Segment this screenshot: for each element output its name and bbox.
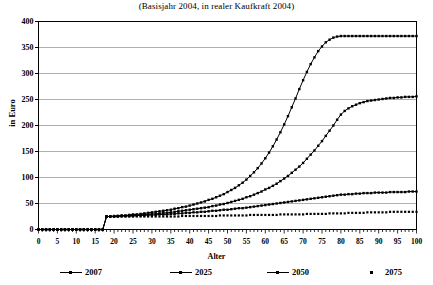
series-marker bbox=[309, 63, 311, 65]
series-marker bbox=[173, 208, 175, 210]
series-marker bbox=[234, 200, 236, 202]
legend-item-2050[interactable]: 2050 bbox=[267, 264, 309, 280]
series-marker bbox=[378, 35, 380, 37]
legend-item-2075[interactable]: 2075 bbox=[360, 264, 402, 280]
series-marker bbox=[336, 35, 338, 37]
y-tick-marks bbox=[35, 22, 39, 230]
series-marker bbox=[355, 104, 357, 106]
series-marker bbox=[177, 215, 179, 217]
series-marker bbox=[279, 213, 281, 215]
series-marker bbox=[257, 205, 259, 207]
series-marker bbox=[283, 201, 285, 203]
series-marker bbox=[173, 215, 175, 217]
series-marker bbox=[351, 193, 353, 195]
series-marker bbox=[340, 193, 342, 195]
series-marker bbox=[275, 138, 277, 140]
series-marker bbox=[79, 228, 81, 230]
series-marker bbox=[332, 212, 334, 214]
legend-label: 2007 bbox=[85, 267, 102, 277]
series-marker bbox=[306, 158, 308, 160]
series-marker bbox=[343, 35, 345, 37]
series-marker bbox=[393, 35, 395, 37]
series-marker bbox=[287, 175, 289, 177]
series-marker bbox=[298, 213, 300, 215]
series-marker bbox=[381, 191, 383, 193]
series-marker bbox=[400, 96, 402, 98]
series-marker bbox=[260, 204, 262, 206]
series-marker bbox=[264, 188, 266, 190]
series-marker bbox=[287, 115, 289, 117]
series-marker bbox=[56, 228, 58, 230]
series-marker bbox=[268, 203, 270, 205]
series-marker bbox=[192, 203, 194, 205]
series-marker bbox=[230, 201, 232, 203]
series-marker bbox=[192, 211, 194, 213]
series-marker bbox=[268, 187, 270, 189]
series-marker bbox=[158, 210, 160, 212]
series-marker bbox=[291, 106, 293, 108]
series-marker bbox=[71, 228, 73, 230]
series-marker bbox=[128, 215, 130, 217]
series-marker bbox=[374, 211, 376, 213]
series-marker bbox=[385, 191, 387, 193]
chart-legend: 2007202520502075 bbox=[0, 264, 433, 282]
series-marker bbox=[366, 192, 368, 194]
series-marker bbox=[408, 190, 410, 192]
series-marker bbox=[90, 228, 92, 230]
series-marker bbox=[162, 213, 164, 215]
series-marker bbox=[181, 206, 183, 208]
series-marker bbox=[98, 228, 100, 230]
series-marker bbox=[359, 192, 361, 194]
series-marker bbox=[370, 35, 372, 37]
series-marker bbox=[238, 207, 240, 209]
series-marker bbox=[173, 213, 175, 215]
series-marker bbox=[404, 35, 406, 37]
series-marker bbox=[200, 215, 202, 217]
series-marker bbox=[207, 199, 209, 201]
series-marker bbox=[378, 98, 380, 100]
series-marker bbox=[260, 190, 262, 192]
series-marker bbox=[397, 211, 399, 213]
series-marker bbox=[393, 97, 395, 99]
series-marker bbox=[196, 202, 198, 204]
series-marker bbox=[204, 211, 206, 213]
series-marker bbox=[226, 214, 228, 216]
series-marker bbox=[291, 213, 293, 215]
series-marker bbox=[253, 205, 255, 207]
series-marker bbox=[362, 35, 364, 37]
series-marker bbox=[389, 97, 391, 99]
series-marker bbox=[185, 212, 187, 214]
series-marker bbox=[404, 211, 406, 213]
series-marker bbox=[283, 177, 285, 179]
legend-item-2007[interactable]: 2007 bbox=[60, 264, 102, 280]
series-marker bbox=[83, 228, 85, 230]
legend-item-2025[interactable]: 2025 bbox=[170, 264, 212, 280]
series-marker bbox=[241, 207, 243, 209]
series-marker bbox=[245, 178, 247, 180]
series-marker bbox=[408, 96, 410, 98]
series-marker bbox=[234, 214, 236, 216]
series-marker bbox=[158, 213, 160, 215]
legend-dot-icon bbox=[69, 271, 72, 274]
series-marker bbox=[325, 41, 327, 43]
series-marker bbox=[272, 203, 274, 205]
series-marker bbox=[279, 202, 281, 204]
series-marker bbox=[230, 208, 232, 210]
series-marker bbox=[306, 198, 308, 200]
series-marker bbox=[336, 119, 338, 121]
series-marker bbox=[230, 214, 232, 216]
series-marker bbox=[317, 145, 319, 147]
series-marker bbox=[306, 213, 308, 215]
legend-marker-icon bbox=[170, 267, 192, 277]
legend-dot-icon bbox=[370, 271, 373, 274]
series-marker bbox=[298, 165, 300, 167]
legend-label: 2025 bbox=[195, 267, 212, 277]
series-marker bbox=[294, 97, 296, 99]
series-marker bbox=[253, 171, 255, 173]
series-marker bbox=[223, 209, 225, 211]
series-marker bbox=[249, 195, 251, 197]
series-marker bbox=[325, 135, 327, 137]
series-marker bbox=[276, 214, 278, 216]
series-marker bbox=[332, 124, 334, 126]
series-marker bbox=[234, 187, 236, 189]
